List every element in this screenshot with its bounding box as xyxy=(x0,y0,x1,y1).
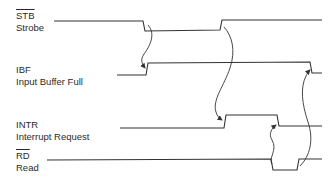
arrow-rd-rise-to-ibf-fall xyxy=(300,70,311,166)
waveform-intr xyxy=(120,115,322,128)
arrow-stb-rise-to-intr-rise xyxy=(215,27,233,120)
timing-waveforms xyxy=(0,0,335,180)
waveform-stb xyxy=(54,20,322,31)
arrow-rd-fall-to-intr-fall xyxy=(270,125,276,164)
waveform-ibf xyxy=(117,62,322,75)
waveform-rd xyxy=(47,159,322,170)
